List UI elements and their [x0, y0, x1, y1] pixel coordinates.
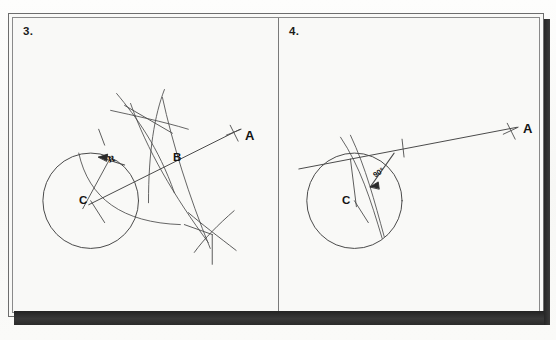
radius-to-tangent-4 [350, 159, 356, 207]
radius-segment-3b [91, 201, 105, 223]
caption-text: the circle. [22, 0, 76, 4]
label-center-c-3: C [79, 194, 87, 206]
frame-right-shadow [544, 19, 550, 325]
arc-long-right-3 [162, 97, 210, 248]
caption-strip: the circle. [0, 0, 556, 10]
label-point-a-4: A [523, 121, 532, 136]
radius-stub-4 [354, 201, 368, 223]
tick-at-a-4 [507, 123, 515, 139]
figure-frame-inner: 3. [12, 17, 540, 313]
tangent-line-4 [299, 127, 517, 169]
label-point-b-3: B [173, 151, 181, 163]
tick-at-a-3b [226, 129, 241, 135]
frame-bottom-shadow [14, 311, 550, 325]
arc-lower-tail-b-3 [184, 225, 212, 235]
label-center-c-4: C [342, 194, 350, 206]
label-point-a-3: A [245, 128, 254, 143]
arc-tick-top-3 [99, 129, 105, 145]
construction-step-4-drawing [279, 18, 539, 312]
arc-upper-right-3 [148, 90, 164, 203]
construction-step-3-panel: 3. [13, 18, 279, 312]
perpendicular-tick-4 [402, 139, 404, 157]
construction-step-3-drawing [13, 18, 278, 312]
figure-frame-outer: 3. [8, 13, 544, 317]
construction-step-4-panel: 4. [279, 18, 539, 312]
